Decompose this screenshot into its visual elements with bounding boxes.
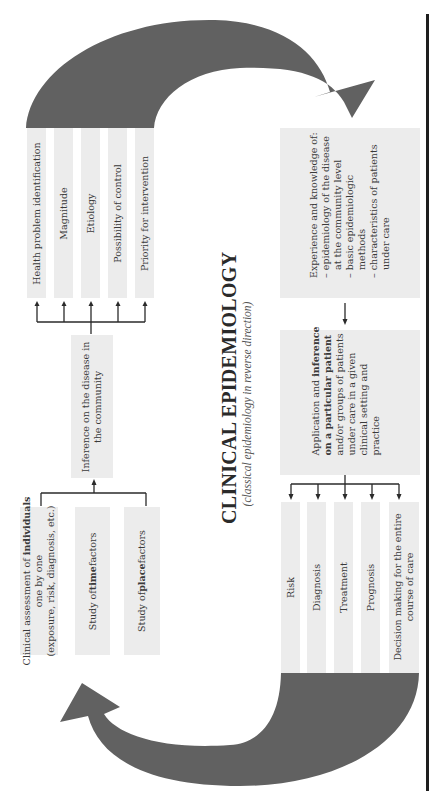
- experience-item: – basic epidemiologic: [344, 175, 356, 278]
- application-line: clinical setting and: [358, 364, 370, 456]
- clinical-outcome-label: Diagnosis: [307, 502, 326, 673]
- page-border-line: [426, 14, 429, 791]
- inference-line: the community: [92, 371, 104, 443]
- clinical-connector: [291, 475, 399, 495]
- clinical-assessment-line: one by one: [33, 555, 45, 607]
- experience-item: under care: [380, 217, 392, 278]
- clinical-outcome-label: Treatment: [334, 502, 353, 673]
- application-line: practice: [370, 416, 382, 455]
- application-line: Application and inference: [310, 326, 322, 455]
- application-line: and/or groups of patients: [334, 333, 346, 455]
- inputs-connector: [41, 484, 146, 506]
- clinical-outcome-label: Decision making for the entire course of…: [389, 502, 419, 673]
- outcome-label: Health problem identification: [27, 129, 46, 299]
- inference-line: Inference on the disease in: [80, 342, 92, 473]
- experience-item: – characteristics of patients: [368, 144, 380, 278]
- outcome-label: Magnitude: [54, 129, 73, 299]
- decision-line: course of care: [404, 553, 416, 622]
- experience-item: – epidemiology of the disease: [320, 136, 332, 278]
- clinical-assessment-line: (exposure, risk, diagnosis, etc.): [45, 506, 57, 657]
- clinical-assessment-text: Clinical assessment of individuals one b…: [20, 507, 58, 655]
- clinical-assessment-line: Clinical assessment of individuals: [21, 497, 33, 666]
- application-text: Application and inference on a particula…: [280, 331, 420, 476]
- application-line: under care in a given: [346, 353, 358, 456]
- place-factors-text: Study of place factors: [124, 507, 160, 655]
- inputs-arrowhead: [92, 479, 97, 485]
- decision-line: Decision making for the entire: [392, 513, 404, 660]
- outcome-label: Priority for intervention: [135, 129, 154, 299]
- community-inference-text: Inference on the disease in the communit…: [71, 336, 113, 479]
- experience-text: Experience and knowledge of: – epidemiol…: [280, 128, 420, 298]
- experience-item: at the community level: [332, 160, 344, 278]
- time-factors-text: Study of time factors: [75, 508, 110, 656]
- community-connector: [37, 305, 145, 334]
- experience-arrowhead: [343, 319, 348, 325]
- title-subtitle: (classical epidemiology in reverse direc…: [240, 284, 254, 524]
- diagram-title: CLINICAL EPIDEMIOLOGY (classical epidemi…: [218, 284, 262, 524]
- application-line: on a particular patient: [322, 335, 334, 456]
- bottom-curved-arrow-icon: [60, 673, 419, 786]
- outcome-label: Possibility of control: [108, 129, 127, 299]
- experience-heading: Experience and knowledge of:: [308, 132, 320, 278]
- clinical-outcome-label: Risk: [281, 502, 300, 673]
- clinical-outcome-label: Prognosis: [361, 502, 380, 673]
- top-curved-arrow-icon: [26, 20, 375, 128]
- outcome-label: Etiology: [81, 129, 100, 299]
- experience-item: methods: [356, 229, 368, 278]
- title-main: CLINICAL EPIDEMIOLOGY: [218, 284, 240, 524]
- community-arrowheads: [35, 301, 148, 306]
- clinical-arrowheads: [289, 494, 402, 500]
